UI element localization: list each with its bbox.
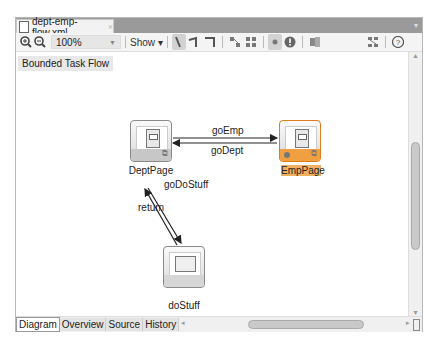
straight-line-icon[interactable]: [172, 34, 186, 50]
collapse-icon[interactable]: ▾: [414, 21, 418, 30]
page-icon: [146, 129, 160, 148]
horizontal-scroll-thumb[interactable]: [248, 320, 364, 329]
close-tab-icon[interactable]: ×: [108, 22, 113, 32]
scroll-left-icon[interactable]: ◂: [181, 319, 185, 327]
warning-icon[interactable]: [282, 34, 298, 50]
grid-icon[interactable]: [268, 34, 282, 50]
layout-vertical-icon[interactable]: [243, 34, 259, 50]
tab-history[interactable]: History: [143, 318, 179, 331]
vertical-scrollbar[interactable]: ▲ ▼: [408, 52, 422, 316]
horizontal-scrollbar[interactable]: ◂ ▸: [179, 318, 422, 331]
separator: [167, 36, 168, 48]
tab-strip: dept-emp-flow.xml × ▾: [16, 18, 422, 33]
tab-overview[interactable]: Overview: [60, 318, 107, 331]
do-stuff-label: doStuff: [154, 300, 214, 311]
chevron-down-icon: ▼: [109, 39, 116, 46]
separator: [302, 36, 303, 48]
publish-icon[interactable]: [307, 34, 323, 50]
tab-source[interactable]: Source: [106, 318, 143, 331]
dept-page-node[interactable]: ⧉: [130, 120, 172, 162]
node-canvas: [285, 126, 317, 150]
zoom-out-icon[interactable]: [33, 34, 47, 50]
page-type-icon: ⧉: [311, 149, 317, 159]
separator: [222, 36, 223, 48]
page-icon: [295, 129, 309, 148]
scroll-right-icon[interactable]: ▸: [406, 319, 410, 327]
diagram-canvas[interactable]: Bounded Task Flow ⧉ DeptPage ⧉ EmpPage: [16, 52, 408, 316]
curved-line-icon[interactable]: [202, 34, 218, 50]
edges-layer: [16, 52, 408, 316]
do-stuff-node[interactable]: [163, 246, 205, 288]
editor-tab[interactable]: dept-emp-flow.xml ×: [16, 19, 114, 34]
emp-page-node[interactable]: ⧉: [279, 120, 321, 162]
separator: [125, 36, 126, 48]
structure-icon[interactable]: [365, 34, 381, 50]
zoom-level-dropdown[interactable]: 100% ▼: [51, 35, 121, 49]
scroll-down-icon[interactable]: ▼: [412, 309, 419, 316]
edge-label-godostuff[interactable]: goDoStuff: [164, 179, 208, 190]
default-activity-icon: [284, 152, 290, 158]
method-call-icon: [175, 256, 196, 272]
node-canvas: [169, 252, 201, 276]
edge-label-godept[interactable]: goDept: [211, 145, 243, 156]
node-footer: [164, 275, 204, 287]
tab-diagram[interactable]: Diagram: [16, 317, 60, 332]
node-canvas: [136, 126, 168, 150]
svg-text:?: ?: [396, 38, 401, 47]
separator: [385, 36, 386, 48]
page-type-icon: ⧉: [162, 149, 168, 159]
layout-horizontal-icon[interactable]: [227, 34, 243, 50]
orthogonal-line-icon[interactable]: [186, 34, 202, 50]
vertical-scroll-thumb[interactable]: [411, 142, 420, 250]
show-dropdown[interactable]: Show ▾: [130, 34, 163, 50]
separator: [263, 36, 264, 48]
split-handle[interactable]: [413, 319, 420, 331]
emp-page-label: EmpPage: [281, 165, 321, 176]
dept-page-label: DeptPage: [121, 165, 181, 176]
edge-label-return[interactable]: return: [138, 202, 164, 213]
zoom-level-value: 100%: [56, 37, 82, 48]
bottom-tab-bar: Diagram Overview Source History ◂ ▸: [16, 316, 422, 332]
zoom-in-icon[interactable]: [19, 34, 33, 50]
help-icon[interactable]: ?: [390, 34, 406, 50]
edge-label-goemp[interactable]: goEmp: [212, 125, 244, 136]
xml-file-icon: [19, 21, 29, 33]
diagram-toolbar: 100% ▼ Show ▾: [16, 33, 422, 52]
scroll-up-icon[interactable]: ▲: [412, 52, 419, 59]
editor-window: dept-emp-flow.xml × ▾ 100% ▼ Show ▾: [15, 17, 423, 332]
